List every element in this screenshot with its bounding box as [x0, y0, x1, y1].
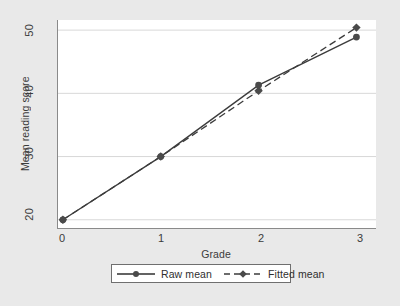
legend-key-solid-circle	[116, 268, 156, 280]
series-raw-mean	[59, 34, 359, 224]
y-axis-title: Mean reading score	[18, 20, 32, 228]
y-tick-label: 30	[24, 147, 48, 160]
x-tick-3: 3	[347, 233, 373, 244]
x-tick-0: 0	[49, 233, 75, 244]
y-tick-label: 50	[24, 24, 48, 37]
legend-label: Fitted mean	[268, 268, 325, 280]
x-axis-title: Grade	[57, 248, 375, 260]
chart-legend: Raw mean Fitted mean	[111, 264, 291, 283]
legend-label: Raw mean	[161, 268, 212, 280]
legend-entry-fitted-mean[interactable]: Fitted mean	[212, 265, 325, 282]
plot-area	[57, 20, 376, 229]
y-tick-label: 40	[24, 85, 48, 98]
legend-key-dashed-diamond	[223, 268, 263, 280]
x-tick-2: 2	[248, 233, 274, 244]
legend-entry-raw-mean[interactable]: Raw mean	[112, 265, 212, 282]
y-tick-label: 20	[24, 208, 48, 221]
plot-canvas	[58, 20, 376, 228]
x-tick-1: 1	[148, 233, 174, 244]
chart-figure: Mean reading score 50 40 30 20 0 1 2 3 G…	[0, 0, 400, 306]
